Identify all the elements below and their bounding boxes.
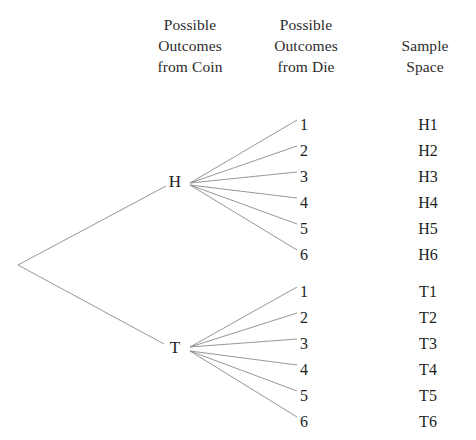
node-die-t-4: 4 — [300, 362, 316, 378]
node-die-h-2: 2 — [300, 143, 316, 159]
edge-h-to-5 — [190, 185, 297, 224]
edge-t-to-2 — [190, 313, 297, 347]
node-die-t-5: 5 — [300, 388, 316, 404]
edge-t-to-4 — [190, 351, 297, 365]
sample-space-t4: T4 — [404, 362, 452, 378]
edges-h-to-die — [190, 120, 297, 250]
sample-space-h6: H6 — [404, 247, 452, 263]
sample-space-h1: H1 — [404, 117, 452, 133]
edge-root-to-t — [18, 265, 164, 344]
node-die-h-5: 5 — [300, 221, 316, 237]
edge-t-to-6 — [190, 351, 297, 417]
node-die-h-6: 6 — [300, 247, 316, 263]
sample-space-t3: T3 — [404, 336, 452, 352]
sample-space-h3: H3 — [404, 169, 452, 185]
node-die-h-3: 3 — [300, 169, 316, 185]
node-coin-tails: T — [164, 339, 186, 356]
edge-t-to-1 — [190, 287, 297, 347]
edge-h-to-4 — [190, 185, 297, 198]
sample-space-h4: H4 — [404, 195, 452, 211]
node-die-t-2: 2 — [300, 310, 316, 326]
sample-space-h2: H2 — [404, 143, 452, 159]
root-edges — [18, 186, 166, 344]
node-die-t-3: 3 — [300, 336, 316, 352]
edge-h-to-6 — [190, 185, 297, 250]
node-die-h-4: 4 — [300, 195, 316, 211]
node-die-t-1: 1 — [300, 284, 316, 300]
edge-t-to-3 — [190, 339, 297, 347]
sample-space-t6: T6 — [404, 414, 452, 430]
sample-space-t1: T1 — [404, 284, 452, 300]
node-die-h-1: 1 — [300, 117, 316, 133]
sample-space-h5: H5 — [404, 221, 452, 237]
edge-t-to-5 — [190, 351, 297, 391]
node-coin-heads: H — [164, 173, 186, 190]
sample-space-t5: T5 — [404, 388, 452, 404]
sample-space-t2: T2 — [404, 310, 452, 326]
edges-t-to-die — [190, 287, 297, 417]
node-die-t-6: 6 — [300, 414, 316, 430]
probability-tree-diagram: Possible Outcomes from Coin Possible Out… — [0, 0, 476, 440]
edge-root-to-h — [18, 186, 166, 265]
